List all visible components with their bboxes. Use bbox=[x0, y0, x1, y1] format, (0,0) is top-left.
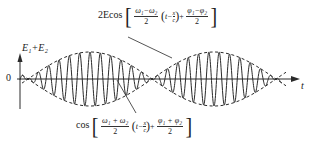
carrier-frac2: φ₁ + φ₂ 2 bbox=[157, 117, 183, 136]
amplitude-axis-arrow-icon bbox=[18, 53, 23, 62]
y-axis-label-text: E₁+E₂ bbox=[22, 42, 48, 53]
bracket-right: ] bbox=[185, 114, 192, 138]
envelope-prefix: 2Ecos bbox=[98, 9, 122, 20]
bracket-left: [ bbox=[92, 114, 99, 138]
y-axis-label: E₁+E₂ bbox=[22, 42, 48, 53]
carrier-frac1: ω₁ + ω₂ 2 bbox=[101, 117, 129, 136]
carrier-formula: cos [ ω₁ + ω₂ 2 (t−xc)+ φ₁ + φ₂ 2 ] bbox=[76, 116, 192, 136]
bracket-right: ] bbox=[211, 4, 218, 28]
envelope-leader-line bbox=[128, 37, 172, 58]
envelope-formula: 2Ecos [ ω₁−ω₂ 2 (t−xc)+ φ₁−φ₂ 2 ] bbox=[98, 6, 217, 26]
envelope-frac1: ω₁−ω₂ 2 bbox=[134, 7, 158, 26]
origin-label: 0 bbox=[6, 72, 11, 83]
carrier-leader-line bbox=[117, 80, 136, 113]
carrier-prefix: cos bbox=[76, 119, 89, 130]
time-axis-arrow-icon bbox=[291, 76, 300, 82]
bracket-left: [ bbox=[125, 4, 132, 28]
x-axis-label: t bbox=[301, 80, 304, 91]
envelope-frac2: φ₁−φ₂ 2 bbox=[186, 7, 208, 26]
